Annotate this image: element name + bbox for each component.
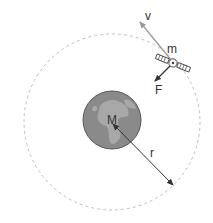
orbit-diagram: v m F M r — [0, 0, 213, 223]
force-label: F — [155, 83, 162, 97]
radius-label: r — [150, 146, 154, 160]
satellite-mass-label: m — [167, 42, 177, 56]
force-arrow — [155, 64, 172, 81]
velocity-label: v — [145, 9, 151, 23]
radius-arrow — [113, 124, 173, 185]
planet-mass-label: M — [107, 113, 117, 127]
